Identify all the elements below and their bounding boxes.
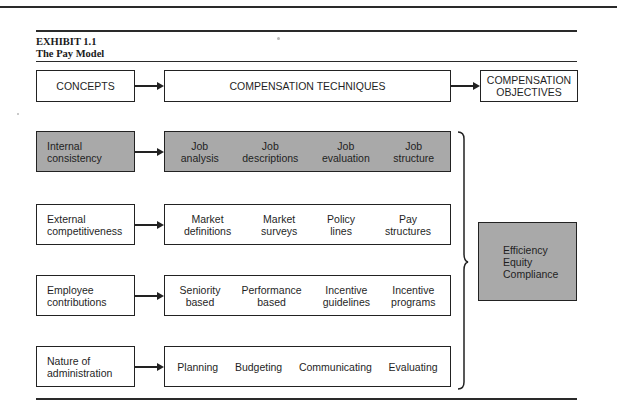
concept-box: Internalconsistency	[36, 131, 135, 172]
arrow-concept-to-techniques	[135, 224, 162, 226]
technique-item: Incentiveguidelines	[323, 284, 370, 308]
concept-label-line: Employee	[47, 284, 107, 296]
objective-efficiency: Efficiency	[503, 244, 558, 256]
grouping-bracket	[455, 130, 475, 392]
concept-label-line: consistency	[47, 152, 102, 164]
technique-label-line: Job	[242, 140, 298, 152]
technique-item: Jobanalysis	[181, 140, 219, 164]
technique-label-line: definitions	[184, 225, 231, 237]
arrow-concepts-to-techniques	[135, 85, 162, 87]
techniques-box: PlanningBudgetingCommunicatingEvaluating	[164, 346, 451, 387]
technique-label-line: surveys	[261, 225, 297, 237]
technique-item: Policylines	[327, 213, 355, 237]
concept-box: Employeecontributions	[36, 275, 135, 316]
arrow-techniques-to-objectives	[451, 85, 478, 87]
objectives-header-line1: COMPENSATION	[487, 74, 571, 86]
concepts-header-label: CONCEPTS	[56, 80, 114, 92]
arrow-concept-to-techniques	[135, 366, 162, 368]
technique-label-line: Job	[322, 140, 370, 152]
techniques-box: SenioritybasedPerformancebasedIncentiveg…	[164, 275, 451, 316]
technique-label-line: guidelines	[323, 296, 370, 308]
technique-item: Evaluating	[389, 361, 438, 373]
technique-label-line: Market	[184, 213, 231, 225]
concept-label-line: contributions	[47, 296, 107, 308]
concept-label-line: Internal	[47, 140, 102, 152]
speck	[277, 37, 280, 40]
technique-item: Jobevaluation	[322, 140, 370, 164]
objectives-header-line2: OBJECTIVES	[496, 86, 561, 98]
objectives-header-box: COMPENSATION OBJECTIVES	[480, 70, 578, 102]
technique-label-line: Policy	[327, 213, 355, 225]
concept-label: Employeecontributions	[47, 284, 107, 308]
technique-item: Performancebased	[242, 284, 302, 308]
technique-label-line: Budgeting	[235, 361, 282, 373]
technique-label-line: Evaluating	[389, 361, 438, 373]
technique-label-line: Job	[393, 140, 434, 152]
concept-label-line: External	[47, 213, 122, 225]
techniques-box: JobanalysisJobdescriptionsJobevaluationJ…	[164, 131, 451, 172]
concept-label: Internalconsistency	[47, 140, 102, 164]
technique-label-line: evaluation	[322, 152, 370, 164]
technique-label-line: Incentive	[391, 284, 435, 296]
technique-label-line: lines	[327, 225, 355, 237]
objective-compliance: Compliance	[503, 268, 558, 280]
technique-label-line: Performance	[242, 284, 302, 296]
technique-item: Marketsurveys	[261, 213, 297, 237]
technique-label-line: based	[242, 296, 302, 308]
technique-label-line: structures	[385, 225, 431, 237]
concept-label: Externalcompetitiveness	[47, 213, 122, 237]
concept-label-line: Nature of	[47, 355, 112, 367]
technique-label-line: Pay	[385, 213, 431, 225]
objective-equity: Equity	[503, 256, 558, 268]
concepts-header-box: CONCEPTS	[36, 70, 135, 102]
technique-item: Paystructures	[385, 213, 431, 237]
technique-label-line: Seniority	[180, 284, 221, 296]
techniques-header-box: COMPENSATION TECHNIQUES	[164, 70, 451, 102]
concept-box: Nature ofadministration	[36, 346, 135, 387]
arrow-concept-to-techniques	[135, 151, 162, 153]
technique-item: Marketdefinitions	[184, 213, 231, 237]
concept-box: Externalcompetitiveness	[36, 204, 135, 245]
speck	[17, 113, 19, 115]
technique-label-line: analysis	[181, 152, 219, 164]
objectives-box: Efficiency Equity Compliance	[478, 222, 577, 301]
technique-label-line: based	[180, 296, 221, 308]
top-page-rule	[0, 6, 617, 8]
concept-label: Nature ofadministration	[47, 355, 112, 379]
technique-label-line: structure	[393, 152, 434, 164]
technique-item: Budgeting	[235, 361, 282, 373]
bottom-rule	[36, 398, 577, 400]
exhibit-title: The Pay Model	[36, 48, 104, 60]
title-top-rule	[36, 30, 577, 32]
techniques-box: MarketdefinitionsMarketsurveysPolicyline…	[164, 204, 451, 245]
technique-label-line: Planning	[177, 361, 218, 373]
technique-item: Senioritybased	[180, 284, 221, 308]
technique-item: Jobstructure	[393, 140, 434, 164]
techniques-header-label: COMPENSATION TECHNIQUES	[230, 80, 386, 92]
concept-label-line: administration	[47, 367, 112, 379]
technique-label-line: Incentive	[323, 284, 370, 296]
technique-label-line: Job	[181, 140, 219, 152]
technique-label-line: programs	[391, 296, 435, 308]
arrow-concept-to-techniques	[135, 295, 162, 297]
concept-label-line: competitiveness	[47, 225, 122, 237]
exhibit-number: EXHIBIT 1.1	[36, 36, 97, 48]
technique-item: Jobdescriptions	[242, 140, 298, 164]
technique-item: Planning	[177, 361, 218, 373]
technique-label-line: Communicating	[299, 361, 372, 373]
technique-item: Incentiveprograms	[391, 284, 435, 308]
objectives-list: Efficiency Equity Compliance	[503, 244, 558, 280]
bracket-path	[458, 132, 468, 389]
title-bottom-rule	[36, 61, 577, 62]
technique-label-line: descriptions	[242, 152, 298, 164]
technique-label-line: Market	[261, 213, 297, 225]
technique-item: Communicating	[299, 361, 372, 373]
